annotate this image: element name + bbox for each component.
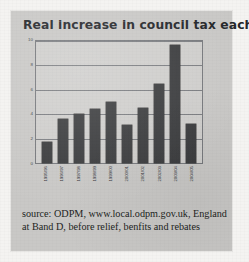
y-axis-tick: 2 bbox=[31, 137, 33, 141]
x-axis-slot: 2001/02 bbox=[135, 166, 151, 188]
bar bbox=[74, 114, 84, 163]
x-axis-slot: 2003/04 bbox=[168, 166, 184, 188]
x-axis-tick: 2000/01 bbox=[125, 166, 129, 182]
bar bbox=[90, 109, 100, 163]
bar bbox=[122, 125, 132, 163]
figure-caption: source: ODPM, www.local.odpm.gov.uk, Eng… bbox=[22, 207, 234, 234]
y-axis-tick: 6 bbox=[31, 87, 33, 91]
x-axis-tick: 1997/98 bbox=[76, 166, 80, 182]
y-axis-tick: 4 bbox=[31, 112, 33, 116]
x-axis-labels: 1995/961996/971997/981998/991999/002000/… bbox=[35, 166, 203, 188]
bar-slot bbox=[71, 41, 87, 163]
bar-slot bbox=[119, 41, 135, 163]
x-axis-tick: 2002/03 bbox=[157, 166, 161, 182]
bar-slot bbox=[151, 41, 167, 163]
x-axis-tick: 2004/05 bbox=[190, 166, 194, 182]
plot-area bbox=[35, 40, 203, 164]
x-axis-tick: 1999/00 bbox=[109, 166, 113, 182]
x-axis-slot: 1995/96 bbox=[38, 166, 54, 188]
x-axis-slot: 1996/97 bbox=[54, 166, 70, 188]
caption-line-2: at Band D, before relief, benfits and re… bbox=[22, 220, 234, 233]
bar-slot bbox=[167, 41, 183, 163]
y-axis-tick: 8 bbox=[31, 63, 33, 67]
x-axis-slot: 1999/00 bbox=[103, 166, 119, 188]
bar-slot bbox=[39, 41, 55, 163]
bar bbox=[42, 142, 52, 163]
y-axis-labels: 0246810 bbox=[21, 40, 34, 164]
bar bbox=[170, 45, 180, 163]
bar bbox=[106, 102, 116, 163]
y-axis-tick: 10 bbox=[28, 38, 33, 42]
figure-block: Real increase in council tax each year 0… bbox=[11, 11, 232, 251]
bar-slot bbox=[135, 41, 151, 163]
bar-slot bbox=[87, 41, 103, 163]
bar bbox=[58, 119, 68, 163]
bar bbox=[154, 84, 164, 163]
bar bbox=[138, 108, 148, 163]
x-axis-tick: 2003/04 bbox=[174, 166, 178, 182]
bar-slot bbox=[55, 41, 71, 163]
chart-title: Real increase in council tax each year bbox=[23, 18, 249, 32]
bar-slot bbox=[103, 41, 119, 163]
bar-slot bbox=[183, 41, 199, 163]
bar-series bbox=[36, 41, 202, 163]
x-axis-tick: 1995/96 bbox=[44, 166, 48, 182]
x-axis-tick: 1996/97 bbox=[60, 166, 64, 182]
x-axis-slot: 2000/01 bbox=[119, 166, 135, 188]
x-axis-slot: 2002/03 bbox=[151, 166, 167, 188]
bar-chart: 0246810 1995/961996/971997/981998/991999… bbox=[21, 40, 221, 185]
x-axis-slot: 1997/98 bbox=[70, 166, 86, 188]
y-axis-tick: 0 bbox=[31, 162, 33, 166]
x-axis-tick: 2001/02 bbox=[141, 166, 145, 182]
caption-line-1: source: ODPM, www.local.odpm.gov.uk, Eng… bbox=[22, 207, 234, 220]
x-axis-tick: 1998/99 bbox=[93, 166, 97, 182]
scanned-page: Real increase in council tax each year 0… bbox=[0, 0, 249, 262]
x-axis-slot: 1998/99 bbox=[87, 166, 103, 188]
bar bbox=[186, 124, 196, 163]
x-axis-slot: 2004/05 bbox=[184, 166, 200, 188]
